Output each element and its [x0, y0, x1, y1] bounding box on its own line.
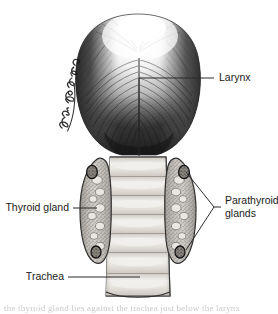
- parathyroid-gland-superior-left: [87, 165, 98, 178]
- label-parathyroid-glands-line2: glands: [225, 207, 256, 219]
- parathyroid-gland-superior-right: [179, 165, 190, 178]
- parathyroid-gland-inferior-left: [91, 246, 101, 258]
- anatomy-illustration-svg: Larynx Thyroid gland Parathyroid glands …: [0, 0, 278, 314]
- label-larynx: Larynx: [219, 71, 251, 83]
- anatomy-figure: Larynx Thyroid gland Parathyroid glands …: [0, 0, 278, 314]
- label-parathyroid-glands-line1: Parathyroid: [225, 194, 278, 206]
- label-trachea: Trachea: [26, 270, 64, 282]
- parathyroid-gland-inferior-right: [175, 246, 185, 258]
- label-thyroid-gland: Thyroid gland: [5, 201, 69, 213]
